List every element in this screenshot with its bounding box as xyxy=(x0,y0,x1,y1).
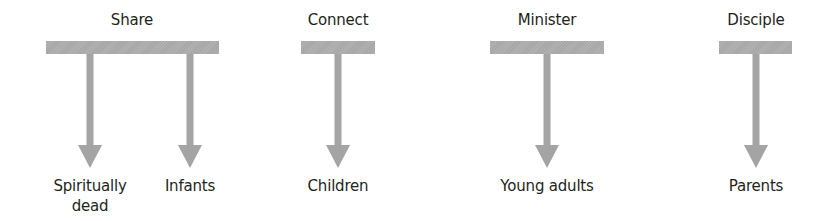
label-line: Young adults xyxy=(500,176,593,196)
label-line: Children xyxy=(308,176,369,196)
target-label-infants: Infants xyxy=(165,176,215,196)
down-arrow-icon xyxy=(743,54,769,168)
group-bar-minister xyxy=(490,41,604,54)
label-line: Infants xyxy=(165,176,215,196)
ministry-flow-diagram: Share Spiritually dead Infants Connect xyxy=(0,0,824,221)
group-heading-share: Share xyxy=(111,10,153,30)
down-arrow-icon xyxy=(77,54,103,168)
down-arrow-icon xyxy=(325,54,351,168)
group-bar-connect xyxy=(301,41,375,54)
target-label-spiritually-dead: Spiritually dead xyxy=(53,176,126,216)
label-line: Spiritually xyxy=(53,176,126,196)
group-heading-disciple: Disciple xyxy=(727,10,784,30)
group-bar-share xyxy=(46,41,219,54)
target-label-parents: Parents xyxy=(729,176,783,196)
down-arrow-icon xyxy=(177,54,203,168)
group-bar-disciple xyxy=(719,41,792,54)
target-label-children: Children xyxy=(308,176,369,196)
down-arrow-icon xyxy=(534,54,560,168)
group-heading-connect: Connect xyxy=(308,10,369,30)
target-label-young-adults: Young adults xyxy=(500,176,593,196)
label-line: dead xyxy=(53,196,126,216)
label-line: Parents xyxy=(729,176,783,196)
group-heading-minister: Minister xyxy=(518,10,576,30)
